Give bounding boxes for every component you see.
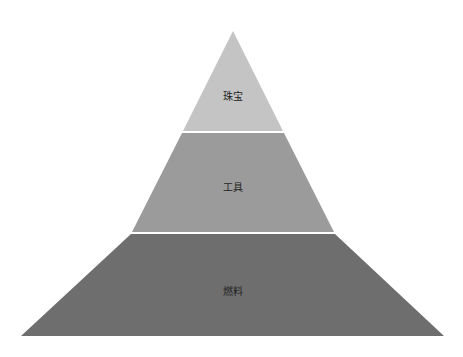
- pyramid-tier-top: [183, 31, 283, 131]
- tier-label-bottom: 燃料: [223, 283, 243, 298]
- tier-label-top: 珠宝: [223, 88, 243, 103]
- tier-label-middle: 工具: [223, 179, 243, 194]
